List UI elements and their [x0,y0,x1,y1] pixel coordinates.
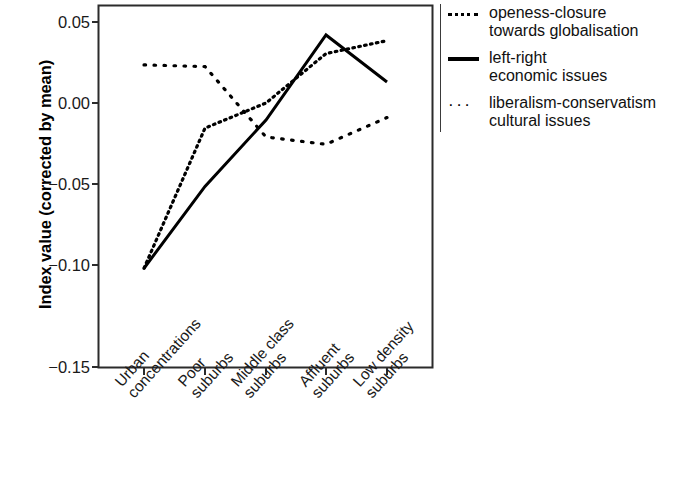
plot-frame [99,6,433,368]
legend-item-leftright[interactable]: left-right economic issues [446,49,690,85]
legend-label-leftright: left-right economic issues [489,49,607,85]
legend-label-openness-line1: openess-closure [489,4,638,22]
legend-key-sparse-dotted-icon: ··· [446,94,482,114]
y-tick-marks [92,22,98,367]
legend-item-openness[interactable]: openess-closure towards globalisation [446,4,690,40]
legend-key-dots: ··· [448,96,472,114]
legend-label-leftright-line2: economic issues [489,67,607,85]
legend-item-liberalism[interactable]: ··· liberalism-conservatism cultural iss… [446,94,690,130]
legend-label-liberalism-line2: cultural issues [489,112,656,130]
legend-label-openness: openess-closure towards globalisation [489,4,638,40]
legend-label-openness-line2: towards globalisation [489,22,638,40]
legend-label-leftright-line1: left-right [489,49,607,67]
legend-key-solid-icon [446,49,482,69]
legend-label-liberalism: liberalism-conservatism cultural issues [489,94,656,130]
chart-figure: Index value (corrected by mean) 0.05 0.0… [0,0,693,499]
series-line-1 [144,35,387,268]
series-line-0 [144,41,387,269]
legend-divider [440,4,441,132]
legend-key-dotted-icon [446,4,482,24]
legend-label-liberalism-line1: liberalism-conservatism [489,94,656,112]
data-series-layer [144,35,387,268]
chart-legend: openess-closure towards globalisation le… [446,4,690,138]
